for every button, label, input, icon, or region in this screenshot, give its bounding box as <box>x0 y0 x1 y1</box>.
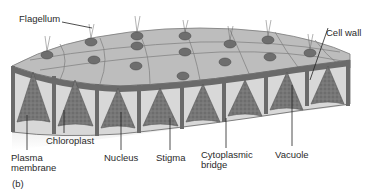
label-chloroplast: Chloroplast <box>46 136 94 146</box>
label-cytoplasmic-bridge-line2: bridge <box>201 160 227 170</box>
label-nucleus: Nucleus <box>104 153 138 163</box>
label-flagellum: Flagellum <box>19 14 60 24</box>
label-cell-wall: Cell wall <box>326 28 361 38</box>
panel-label: (b) <box>12 179 24 189</box>
label-stigma: Stigma <box>156 153 186 163</box>
label-vacuole: Vacuole <box>275 150 309 160</box>
label-plasma-membrane-line2: membrane <box>11 163 56 173</box>
